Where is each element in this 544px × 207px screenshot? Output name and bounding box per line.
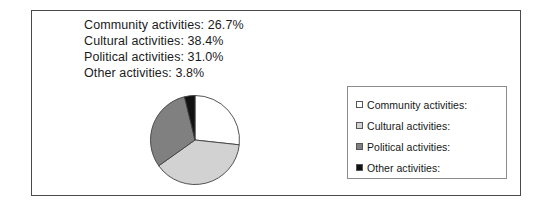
legend-item-political[interactable]: Political activities: <box>356 136 506 157</box>
legend-label-community: Community activities: <box>367 99 467 111</box>
pie-chart-svg <box>149 94 241 186</box>
legend-label-cultural: Cultural activities: <box>367 120 450 132</box>
legend: Community activities: Cultural activitie… <box>347 86 507 179</box>
legend-item-community[interactable]: Community activities: <box>356 94 506 115</box>
legend-swatch-cultural-icon <box>356 122 363 129</box>
legend-label-political: Political activities: <box>367 141 450 153</box>
legend-item-cultural[interactable]: Cultural activities: <box>356 115 506 136</box>
legend-swatch-other-icon <box>356 164 363 171</box>
caption-line-political: Political activities: 31.0% <box>84 49 384 65</box>
legend-swatch-political-icon <box>356 143 363 150</box>
pie-chart <box>149 94 241 186</box>
caption-block: Community activities: 26.7% Cultural act… <box>84 17 384 81</box>
legend-swatch-community-icon <box>356 101 363 108</box>
figure-frame: Community activities: 26.7% Cultural act… <box>31 10 521 196</box>
pie-slice-community[interactable] <box>195 96 240 145</box>
caption-line-community: Community activities: 26.7% <box>84 17 384 33</box>
caption-line-cultural: Cultural activities: 38.4% <box>84 33 384 49</box>
legend-label-other: Other activities: <box>367 162 440 174</box>
caption-line-other: Other activities: 3.8% <box>84 65 384 81</box>
legend-item-other[interactable]: Other activities: <box>356 157 506 178</box>
